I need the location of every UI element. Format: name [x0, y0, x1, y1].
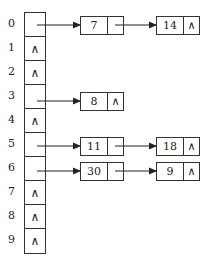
list-node-7: 7 [80, 16, 124, 35]
null-pointer-icon: ∧ [31, 42, 40, 56]
list-node-30: 30 [80, 162, 124, 181]
bucket-cell-0 [24, 12, 46, 37]
node-next-pointer [108, 17, 123, 34]
bucket-cell-4: ∧ [24, 108, 46, 133]
null-pointer-icon: ∧ [184, 17, 199, 34]
bucket-index-4: 4 [8, 113, 20, 126]
list-node-18: 18 ∧ [156, 137, 200, 156]
bucket-cell-7: ∧ [24, 180, 46, 205]
list-node-11: 11 [80, 137, 124, 156]
bucket-index-0: 0 [8, 17, 20, 30]
node-value: 8 [81, 93, 108, 110]
bucket-index-3: 3 [8, 89, 20, 102]
null-pointer-icon: ∧ [31, 234, 40, 248]
bucket-index-7: 7 [8, 185, 20, 198]
null-pointer-icon: ∧ [108, 93, 123, 110]
list-node-14: 14 ∧ [156, 16, 200, 35]
null-pointer-icon: ∧ [31, 114, 40, 128]
null-pointer-icon: ∧ [184, 138, 199, 155]
null-pointer-icon: ∧ [31, 66, 40, 80]
bucket-index-2: 2 [8, 65, 20, 78]
list-node-8: 8 ∧ [80, 92, 124, 111]
bucket-cell-6 [24, 156, 46, 181]
node-value: 30 [81, 163, 108, 180]
bucket-index-1: 1 [8, 41, 20, 54]
bucket-cell-8: ∧ [24, 204, 46, 229]
node-value: 14 [157, 17, 184, 34]
bucket-index-6: 6 [8, 161, 20, 174]
bucket-index-5: 5 [8, 137, 20, 150]
bucket-cell-2: ∧ [24, 60, 46, 85]
node-next-pointer [108, 138, 123, 155]
bucket-index-8: 8 [8, 209, 20, 222]
node-value: 9 [157, 163, 184, 180]
list-node-9: 9 ∧ [156, 162, 200, 181]
null-pointer-icon: ∧ [31, 210, 40, 224]
node-value: 18 [157, 138, 184, 155]
null-pointer-icon: ∧ [31, 186, 40, 200]
node-next-pointer [108, 163, 123, 180]
bucket-cell-9: ∧ [24, 228, 46, 254]
bucket-cell-1: ∧ [24, 36, 46, 61]
bucket-cell-3 [24, 84, 46, 109]
node-value: 11 [81, 138, 108, 155]
null-pointer-icon: ∧ [184, 163, 199, 180]
bucket-index-9: 9 [8, 233, 20, 246]
node-value: 7 [81, 17, 108, 34]
bucket-cell-5 [24, 132, 46, 157]
